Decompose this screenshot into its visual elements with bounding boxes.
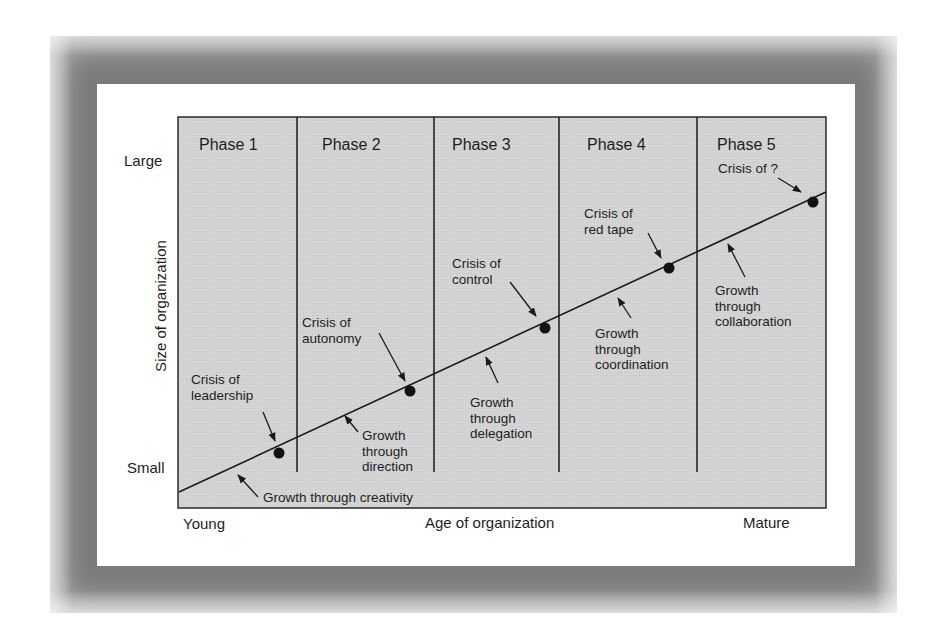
x-axis-left-label: Young xyxy=(183,515,225,532)
crisis-point-3 xyxy=(540,323,551,334)
growth-label-collaboration: Growth through collaboration xyxy=(715,283,792,330)
crisis-point-4 xyxy=(664,263,675,274)
crisis-label-leadership: Crisis of leadership xyxy=(191,372,253,403)
x-axis-right-label: Mature xyxy=(743,514,790,531)
phase-5-header: Phase 5 xyxy=(717,136,776,154)
phase-3-header: Phase 3 xyxy=(452,136,511,154)
y-axis-bottom-label: Small xyxy=(127,459,165,476)
crisis-point-1 xyxy=(274,448,285,459)
growth-label-delegation: Growth through delegation xyxy=(470,395,532,442)
crisis-label-control: Crisis of control xyxy=(452,256,501,287)
crisis-point-5 xyxy=(808,197,819,208)
crisis-label-red-tape: Crisis of red tape xyxy=(584,206,634,237)
phase-2-header: Phase 2 xyxy=(322,136,381,154)
crisis-label-unknown: Crisis of ? xyxy=(718,161,778,177)
y-axis-label: Size of organization xyxy=(152,240,169,372)
crisis-label-autonomy: Crisis of autonomy xyxy=(302,315,361,346)
phase-4-header: Phase 4 xyxy=(587,136,646,154)
growth-label-coordination: Growth through coordination xyxy=(595,326,669,373)
phase-1-header: Phase 1 xyxy=(199,136,258,154)
x-axis-label: Age of organization xyxy=(425,514,554,531)
y-axis-top-label: Large xyxy=(124,152,162,169)
crisis-point-2 xyxy=(405,386,416,397)
growth-label-creativity: Growth through creativity xyxy=(263,490,413,506)
growth-label-direction: Growth through direction xyxy=(362,428,413,475)
